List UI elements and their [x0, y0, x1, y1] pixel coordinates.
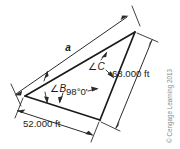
- ext-line-right-52: [91, 122, 99, 142]
- angle-letter-c: C: [98, 61, 106, 72]
- arrowhead-98-right: [91, 87, 99, 92]
- annotation-angle-c: ∠C: [88, 52, 114, 79]
- ext-line-top-68: [137, 33, 158, 42]
- label-dimension-52ft: 52.000 ft: [23, 118, 61, 129]
- label-side-a: a: [65, 42, 71, 53]
- annotation-angle-b: ∠B: [44, 71, 67, 104]
- label-dimension-68ft: 68.000 ft: [112, 68, 150, 79]
- label-angle-c: ∠C: [88, 61, 106, 72]
- arrowhead-angle-c-upper: [101, 52, 107, 58]
- arrowhead-a-left: [15, 91, 23, 96]
- label-angle-a-value: 98°0': [66, 86, 88, 97]
- ext-line-right-a: [132, 6, 140, 26]
- triangle-diagram-svg: a 68.000 ft 52.000 ft: [0, 0, 180, 149]
- figure-container: a 68.000 ft 52.000 ft: [0, 0, 180, 149]
- copyright-notice: © Cengage Learning 2013: [166, 69, 174, 143]
- arrowhead-52-right: [85, 131, 94, 136]
- dim-line-68: [116, 40, 152, 128]
- arrowhead-98-left: [58, 96, 63, 103]
- angle-symbol-b: ∠: [50, 83, 59, 94]
- angle-symbol-c: ∠: [88, 61, 97, 72]
- label-angle-b: ∠B: [50, 83, 67, 94]
- dim-line-a: [16, 17, 127, 94]
- dimension-bottom-52ft: 52.000 ft: [15, 98, 99, 142]
